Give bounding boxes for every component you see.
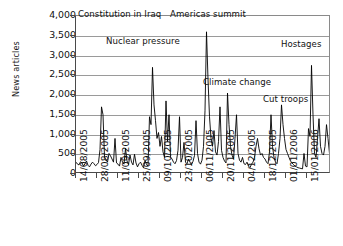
x-axis-tick-mark [285, 173, 286, 178]
x-axis-tick-mark [138, 173, 139, 178]
y-axis-tick-label: 4,000 [24, 10, 76, 19]
x-axis-tick-label: 23/10/2005 [184, 129, 193, 182]
y-axis-tick-label: 1,500 [24, 109, 76, 118]
x-axis-tick-label: 20/11/2005 [226, 129, 235, 182]
chart-annotation: Nuclear pressure [106, 37, 180, 46]
x-axis-tick-mark [222, 173, 223, 178]
chart-annotation: Hostages [281, 40, 321, 49]
y-axis-tick-label: 0 [24, 168, 76, 177]
news-articles-time-series-chart: News articles 4,0003,5003,0002,5002,0001… [0, 0, 343, 246]
chart-annotation: Cut troops [263, 95, 308, 104]
x-axis-tick-mark [117, 173, 118, 178]
y-axis-title: News articles [11, 19, 21, 119]
x-axis-tick-label: 11/09/2005 [121, 129, 130, 182]
y-axis-tick-label: 1,000 [24, 129, 76, 138]
x-axis-tick-label: 14/08/2005 [79, 129, 88, 182]
y-axis-tick-label: 2,500 [24, 69, 76, 78]
x-axis-tick-label: 04/12/2005 [247, 129, 256, 182]
y-axis-tick-label: 2,000 [24, 89, 76, 98]
x-axis-tick-label: 15/01/2006 [310, 129, 319, 182]
x-axis-tick-mark [75, 173, 76, 178]
x-axis-tick-mark [96, 173, 97, 178]
x-axis-tick-mark [159, 173, 160, 178]
y-axis-tick-label: 500 [24, 148, 76, 157]
x-axis-tick-mark [201, 173, 202, 178]
x-axis-tick-label: 09/10/2005 [163, 129, 172, 182]
x-axis-tick-mark [180, 173, 181, 178]
x-axis-tick-label: 25/09/2005 [142, 129, 151, 182]
x-axis-tick-mark [264, 173, 265, 178]
x-axis-tick-label: 18/12/2005 [268, 129, 277, 182]
x-axis-tick-label: 06/11/2005 [205, 129, 214, 182]
x-axis-tick-mark [243, 173, 244, 178]
chart-annotation: Climate change [203, 78, 271, 87]
x-axis-tick-label: 01/01/2006 [289, 129, 298, 182]
chart-annotation: Americas summit [170, 10, 246, 19]
y-axis-tick-label: 3,000 [24, 50, 76, 59]
x-axis-tick-mark [306, 173, 307, 178]
chart-annotation: Constitution in Iraq [78, 10, 161, 19]
y-axis-tick-label: 3,500 [24, 30, 76, 39]
x-axis-tick-label: 28/08/2005 [100, 129, 109, 182]
